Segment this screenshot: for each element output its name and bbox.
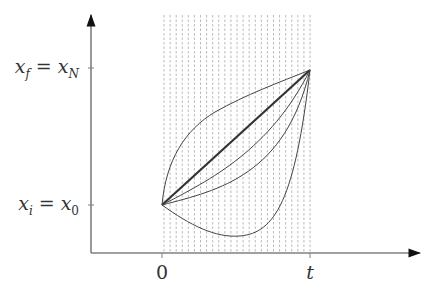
xf-symbol: x <box>15 55 26 77</box>
xN-subscript: N <box>68 67 80 81</box>
lower-dip-path <box>162 70 310 236</box>
xi-subscript: i <box>29 204 33 218</box>
axis-labels: 0 t xf=xN xi=x0 <box>15 55 314 283</box>
x0-subscript: 0 <box>71 204 79 218</box>
xi-symbol: x <box>18 192 29 214</box>
x0-symbol: x <box>61 192 72 214</box>
paths <box>162 70 310 236</box>
y-tick-label-xi-equals-x0: xi=x0 <box>18 192 79 218</box>
equals-sign: = <box>36 55 52 77</box>
axis-ticks <box>88 68 310 258</box>
xf-subscript: f <box>24 67 32 81</box>
x-tick-label-zero: 0 <box>156 261 168 283</box>
time-slice-grid <box>164 15 310 253</box>
equals-sign: = <box>39 192 55 214</box>
x-tick-label-t: t <box>306 261 314 283</box>
path-integral-diagram: 0 t xf=xN xi=x0 <box>0 0 428 292</box>
y-tick-label-xf-equals-xN: xf=xN <box>15 55 80 81</box>
classical-straight-path <box>162 70 310 205</box>
xN-symbol: x <box>58 55 69 77</box>
